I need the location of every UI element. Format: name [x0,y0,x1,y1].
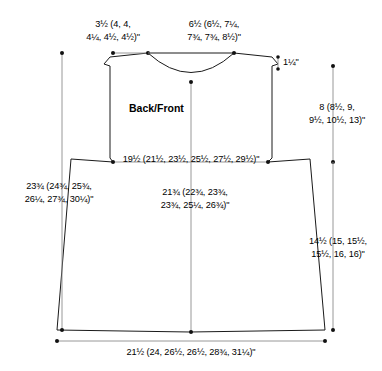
dimension-dot [276,55,280,59]
piece-name-label: Back/Front [129,102,184,114]
dimension-dot [323,339,327,343]
dimension-dot [276,67,280,71]
dimension-dot [189,80,193,84]
neck-depth-label: 1¼" [283,56,299,69]
dimension-dot [189,330,193,334]
neckline-curve [148,53,234,73]
dimension-dot [60,328,64,332]
dimension-dot [60,51,64,55]
garment-schematic-diagram: 3½ (4, 4, 4¼, 4½, 4½)" 6½ (6½, 7¼, 7¾, 7… [0,0,382,371]
side-length-label: 14½ (15, 15½, 15½, 16, 16)" [294,235,382,260]
armhole-depth-label: 8 (8½, 9, 9½, 10½, 13)" [292,101,382,126]
hem-width-label: 21½ (24, 26½, 26½, 28¾, 31¼)" [81,346,301,359]
dimension-dot [55,339,59,343]
chest-width-label: 19½ (21½, 23½, 25½, 27½, 29½)" [96,153,286,166]
body-width-center-label: 21¾ (22¾, 23¾, 23¾, 25¼, 26¾)" [139,186,251,211]
dimension-dot [232,51,236,55]
dimension-dot [111,51,115,55]
dimension-dot [331,64,335,68]
neck-width-label: 6½ (6½, 7¼, 7¾, 7¾, 8½)" [162,18,266,43]
dimension-dot [331,328,335,332]
total-length-label: 23¾ (24¾, 25¾, 26¼, 27¾, 30¼)" [12,180,106,205]
shoulder-width-label: 3½ (4, 4, 4¼, 4½, 4½)" [60,18,166,43]
